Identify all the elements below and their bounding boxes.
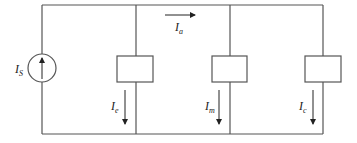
- branch-e-label: Ie: [110, 99, 119, 115]
- branch-c: Ic: [298, 56, 341, 124]
- wires: [42, 5, 323, 134]
- top-current-indicator: Ia: [165, 15, 195, 36]
- source-label: IS: [14, 62, 23, 78]
- impedance-m-box: [212, 56, 247, 82]
- branch-c-label: Ic: [298, 99, 307, 115]
- top-current-label: Ia: [174, 20, 183, 36]
- impedance-e-box: [117, 56, 153, 82]
- current-source: IS: [14, 54, 56, 82]
- impedance-c-box: [305, 56, 341, 82]
- branch-e: Ie: [110, 56, 153, 124]
- circuit-diagram: IS Ia Ie Im Ic: [0, 0, 357, 143]
- branch-m-label: Im: [204, 99, 215, 115]
- branch-m: Im: [204, 56, 247, 124]
